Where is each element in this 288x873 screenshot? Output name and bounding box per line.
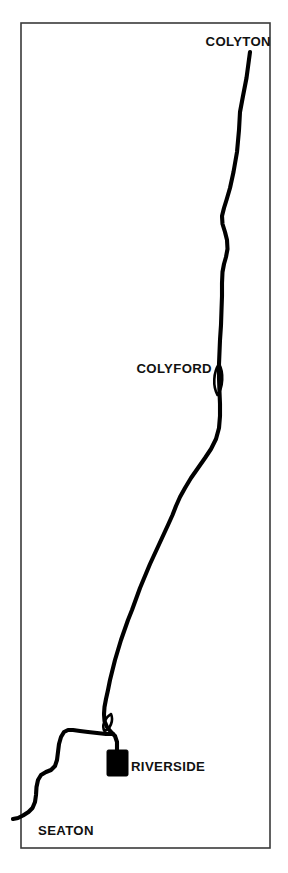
route-map-figure: COLYTON COLYFORD RIVERSIDE SEATON — [0, 0, 288, 873]
map-background — [22, 24, 269, 847]
station-label-riverside: RIVERSIDE — [131, 759, 205, 774]
station-label-seaton: SEATON — [38, 823, 94, 838]
station-label-colyford: COLYFORD — [136, 361, 212, 376]
station-label-colyton: COLYTON — [206, 34, 271, 49]
route-map-svg: COLYTON COLYFORD RIVERSIDE SEATON — [0, 0, 288, 873]
riverside-station-marker — [107, 750, 128, 776]
